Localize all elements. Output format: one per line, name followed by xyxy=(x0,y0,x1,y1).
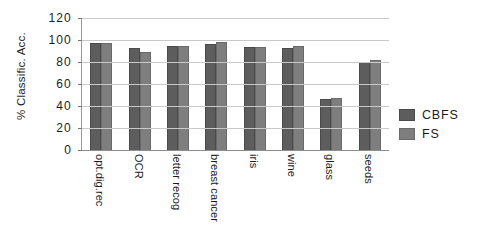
y-tick-label-40: 40 xyxy=(56,99,72,113)
y-tick-label-0: 0 xyxy=(64,143,72,157)
legend-item-fs[interactable]: FS xyxy=(399,127,459,141)
y-axis-title: % Classific. Acc. xyxy=(15,11,27,141)
gridline-20 xyxy=(82,128,389,129)
legend: CBFSFS xyxy=(399,108,459,141)
x-category-cell: seeds xyxy=(350,152,388,247)
gridline-80 xyxy=(82,62,389,63)
bar-chart: % Classific. Acc. 120100806040200 opt.di… xyxy=(0,0,489,249)
x-category-cell: glass xyxy=(311,152,349,247)
x-category-label: OCR xyxy=(133,154,145,179)
y-tickmark-20 xyxy=(78,128,82,129)
gridline-100 xyxy=(82,40,389,41)
y-tick-label-100: 100 xyxy=(48,33,72,47)
bar-cbfs[interactable] xyxy=(129,48,140,150)
x-category-label: seeds xyxy=(363,154,375,184)
bar-cbfs[interactable] xyxy=(205,44,216,150)
bar-fs[interactable] xyxy=(216,42,227,150)
bar-cbfs[interactable] xyxy=(282,48,293,150)
x-axis-category-labels: opt.dig.recOCRletter recogbreast canceri… xyxy=(81,152,388,247)
x-category-label: opt.dig.rec xyxy=(94,154,106,206)
y-tickmark-0 xyxy=(78,150,82,151)
x-category-cell: letter recog xyxy=(158,152,196,247)
legend-label: CBFS xyxy=(422,108,459,122)
y-tick-label-80: 80 xyxy=(56,55,72,69)
x-category-cell: iris xyxy=(235,152,273,247)
bar-fs[interactable] xyxy=(101,43,112,150)
y-tickmark-100 xyxy=(78,40,82,41)
bar-cbfs[interactable] xyxy=(90,43,101,150)
x-category-label: letter recog xyxy=(171,154,183,210)
bar-fs[interactable] xyxy=(140,52,151,150)
x-category-label: breast cancer xyxy=(209,154,221,222)
x-category-cell: opt.dig.rec xyxy=(81,152,119,247)
y-axis-tick-labels: 120100806040200 xyxy=(36,12,76,152)
x-category-cell: OCR xyxy=(119,152,157,247)
gridline-60 xyxy=(82,84,389,85)
plot-area xyxy=(81,18,389,151)
y-tickmark-120 xyxy=(78,18,82,19)
y-tickmark-40 xyxy=(78,106,82,107)
x-category-cell: breast cancer xyxy=(196,152,234,247)
x-category-cell: wine xyxy=(273,152,311,247)
y-tick-label-20: 20 xyxy=(56,121,72,135)
x-category-label: wine xyxy=(286,154,298,177)
x-category-label: glass xyxy=(324,154,336,180)
legend-swatch-icon xyxy=(399,109,415,121)
gridline-120 xyxy=(82,18,389,19)
x-category-label: iris xyxy=(248,154,260,168)
gridline-40 xyxy=(82,106,389,107)
y-tick-label-60: 60 xyxy=(56,77,72,91)
legend-item-cbfs[interactable]: CBFS xyxy=(399,108,459,122)
legend-label: FS xyxy=(422,127,440,141)
y-tickmark-60 xyxy=(78,84,82,85)
legend-swatch-icon xyxy=(399,128,415,140)
y-tick-label-120: 120 xyxy=(48,11,72,25)
y-tickmark-80 xyxy=(78,62,82,63)
